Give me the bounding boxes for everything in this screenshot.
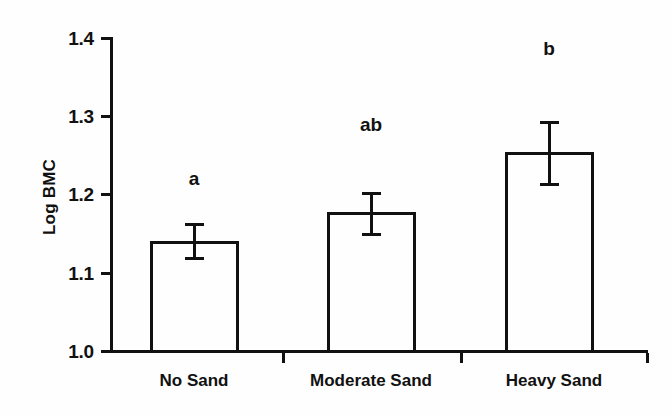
error-bar-cap-lower-moderate-sand: [362, 233, 381, 236]
y-tick-mark-1.3: [101, 115, 110, 118]
bar-chart-figure: Log BMC 1.4 1.3 1.2 1.1 1.0 a No Sand ab…: [0, 0, 672, 417]
error-bar-cap-lower-heavy-sand: [540, 183, 559, 186]
x-tick-label-moderate-sand: Moderate Sand: [291, 371, 451, 391]
x-tick-label-heavy-sand: Heavy Sand: [474, 371, 634, 391]
y-tick-mark-1.4: [101, 37, 110, 40]
y-tick-mark-1.2: [101, 193, 110, 196]
significance-letter-moderate-sand: ab: [341, 114, 401, 136]
significance-letter-heavy-sand: b: [519, 38, 579, 60]
y-tick-mark-1.1: [101, 272, 110, 275]
error-bar-cap-upper-moderate-sand: [362, 192, 381, 195]
error-bar-cap-lower-no-sand: [185, 257, 204, 260]
error-bar-stem-no-sand: [193, 223, 196, 260]
significance-letter-no-sand: a: [164, 168, 224, 190]
y-axis-line: [110, 37, 113, 353]
error-bar-stem-heavy-sand: [548, 121, 551, 186]
error-bar-cap-upper-no-sand: [185, 223, 204, 226]
y-tick-label-1.2: 1.2: [46, 184, 94, 206]
y-tick-label-1.3: 1.3: [46, 106, 94, 128]
x-tick-mark-1: [460, 353, 463, 363]
y-tick-label-1.4: 1.4: [46, 28, 94, 50]
x-tick-label-no-sand: No Sand: [114, 371, 274, 391]
error-bar-stem-moderate-sand: [370, 192, 373, 236]
error-bar-cap-upper-heavy-sand: [540, 121, 559, 124]
y-tick-label-1.0: 1.0: [46, 341, 94, 363]
y-tick-label-1.1: 1.1: [46, 263, 94, 285]
x-tick-mark-0: [282, 353, 285, 363]
y-tick-mark-1.0: [101, 350, 110, 353]
x-tick-mark-2: [646, 353, 649, 363]
